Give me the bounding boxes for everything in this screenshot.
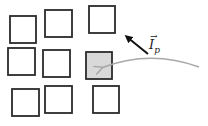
square: [89, 6, 115, 33]
vector-mark: →: [150, 31, 158, 41]
square: [43, 50, 70, 77]
square: [45, 10, 72, 37]
square: [45, 86, 72, 113]
label-subscript: p: [154, 45, 160, 55]
gray-curved-arrow: [101, 58, 199, 68]
square: [10, 16, 36, 43]
squares-grid: [8, 6, 119, 116]
square: [12, 89, 39, 116]
square: [8, 48, 35, 75]
black-direction-arrow: [127, 37, 148, 54]
diagram-canvas: [0, 0, 208, 126]
square: [93, 86, 119, 113]
vector-label: →Ip: [149, 37, 160, 55]
